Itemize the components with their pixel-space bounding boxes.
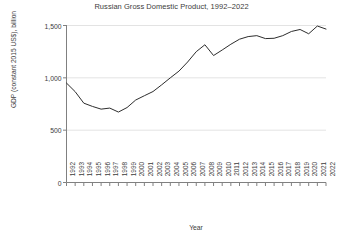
x-tick-label: 1994 [86, 162, 93, 188]
x-tick-label: 2001 [147, 162, 154, 188]
x-tick-label: 2016 [277, 162, 284, 188]
x-tick-label: 2010 [225, 162, 232, 188]
x-tick-label: 1999 [130, 162, 137, 188]
x-tick-label: 1993 [78, 162, 85, 188]
x-tick-label: 1998 [121, 162, 128, 188]
chart-container: Russian Gross Domestic Product, 1992–202… [0, 0, 343, 240]
gridlines [67, 26, 327, 183]
x-tick-label: 2008 [208, 162, 215, 188]
x-tick-label: 2018 [294, 162, 301, 188]
x-tick-label: 2005 [182, 162, 189, 188]
x-tick-label: 2003 [164, 162, 171, 188]
x-tick-label: 2017 [285, 162, 292, 188]
x-tick-label: 2022 [329, 162, 336, 188]
x-tick-label: 2011 [233, 162, 240, 188]
y-tick-label: 500 [29, 127, 62, 134]
x-tick-label: 2015 [268, 162, 275, 188]
x-tick-label: 1997 [112, 162, 119, 188]
x-tick-label: 2014 [259, 162, 266, 188]
x-tick-label: 2013 [251, 162, 258, 188]
x-tick-label: 2002 [156, 162, 163, 188]
x-tick-label: 1992 [69, 162, 76, 188]
x-tick-label: 1996 [104, 162, 111, 188]
x-tick-label: 2007 [199, 162, 206, 188]
plot-area [0, 0, 343, 240]
y-axis [63, 25, 67, 183]
y-tick-label: 1,500 [29, 22, 62, 29]
x-tick-label: 1995 [95, 162, 102, 188]
y-tick-label: 0 [29, 179, 62, 186]
y-tick-label: 1,000 [29, 74, 62, 81]
x-tick-label: 2006 [190, 162, 197, 188]
x-tick-label: 2020 [311, 162, 318, 188]
x-tick-label: 2004 [173, 162, 180, 188]
gdp-line [67, 26, 327, 112]
x-tick-label: 2021 [320, 162, 327, 188]
x-tick-label: 2019 [303, 162, 310, 188]
x-tick-label: 2012 [242, 162, 249, 188]
data-series-gdp [67, 26, 327, 112]
x-tick-label: 2000 [138, 162, 145, 188]
x-tick-label: 2009 [216, 162, 223, 188]
